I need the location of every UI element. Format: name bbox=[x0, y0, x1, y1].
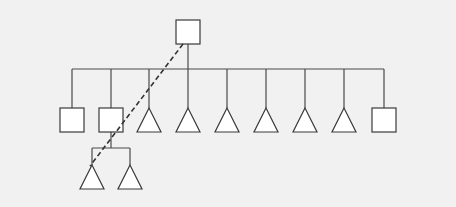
grandchild-node-0-triangle bbox=[80, 165, 104, 189]
child-node-5-triangle bbox=[254, 108, 278, 132]
child-node-3-triangle bbox=[176, 108, 200, 132]
child-node-8-square bbox=[372, 108, 396, 132]
dashed-connector bbox=[90, 44, 183, 166]
root-node-square bbox=[176, 20, 200, 44]
child-node-4-triangle bbox=[215, 108, 239, 132]
child-node-0-square bbox=[60, 108, 84, 132]
tree-diagram bbox=[0, 0, 456, 207]
child-node-6-triangle bbox=[293, 108, 317, 132]
child-node-2-triangle bbox=[137, 108, 161, 132]
grandchild-node-1-triangle bbox=[118, 165, 142, 189]
child-node-7-triangle bbox=[332, 108, 356, 132]
